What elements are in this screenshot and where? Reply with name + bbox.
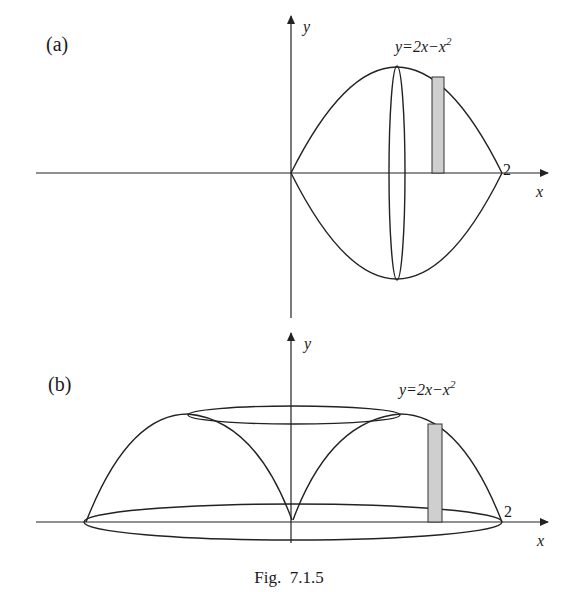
curve-label-a: y=2x−x2 xyxy=(393,35,452,56)
x-tick-2-b: 2 xyxy=(504,503,512,520)
curve-label-b: y=2x−x2 xyxy=(397,378,456,399)
panel-b: (b) y x 2 y=2x−x2 xyxy=(36,333,548,549)
shaded-strip-a xyxy=(432,77,444,173)
parabola-right-outer-b xyxy=(400,414,502,522)
panel-b-label: (b) xyxy=(48,373,71,396)
panel-a: (a) y x 2 y=2x−x2 xyxy=(36,16,548,318)
shaded-strip-b xyxy=(428,424,442,522)
top-ellipse-b xyxy=(188,406,400,424)
y-axis-label-b: y xyxy=(302,335,312,353)
figure-caption: Fig. 7.1.5 xyxy=(254,568,323,587)
panel-a-label: (a) xyxy=(46,33,68,56)
figure-canvas: (a) y x 2 y=2x−x2 (b) y x 2 y=2x−x2 xyxy=(0,0,578,592)
x-tick-2-a: 2 xyxy=(503,161,511,178)
parabola-lower-a xyxy=(291,173,502,279)
y-axis-label-a: y xyxy=(301,18,311,36)
parabola-left-outer-b xyxy=(86,414,188,522)
x-axis-label-b: x xyxy=(536,532,544,549)
parabola-upper-a xyxy=(291,67,502,173)
x-axis-label-a: x xyxy=(535,183,543,200)
